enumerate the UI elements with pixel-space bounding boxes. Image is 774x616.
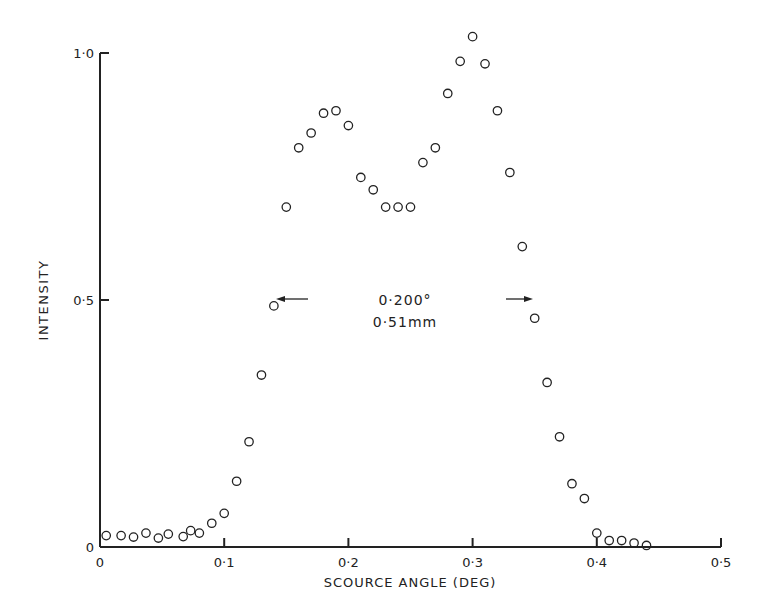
- width-mm-annotation: 0·51mm: [373, 314, 437, 330]
- data-point: [543, 378, 551, 386]
- data-point: [257, 371, 265, 379]
- data-point: [605, 536, 613, 544]
- data-point: [506, 168, 514, 176]
- y-tick-label: 1·0: [73, 46, 94, 61]
- data-point: [518, 242, 526, 250]
- data-point: [186, 526, 194, 534]
- data-point: [208, 519, 216, 527]
- data-point: [419, 158, 427, 166]
- data-point: [394, 203, 402, 211]
- data-point: [295, 144, 303, 152]
- data-point: [381, 203, 389, 211]
- data-point: [282, 203, 290, 211]
- data-point: [593, 529, 601, 537]
- x-axis-label: SCOURCE ANGLE (DEG): [324, 575, 497, 590]
- data-point: [406, 203, 414, 211]
- data-point: [468, 32, 476, 40]
- data-point: [481, 60, 489, 68]
- data-point: [630, 539, 638, 547]
- data-point: [580, 494, 588, 502]
- data-point: [179, 532, 187, 540]
- data-point: [568, 480, 576, 488]
- data-point: [307, 129, 315, 137]
- data-point: [456, 57, 464, 65]
- right-arrow-icon: [524, 296, 533, 302]
- x-tick-label: 0·2: [338, 555, 359, 570]
- data-point: [493, 107, 501, 115]
- x-tick-label: 0·1: [214, 555, 235, 570]
- data-point: [142, 529, 150, 537]
- x-tick-label: 0·3: [462, 555, 483, 570]
- data-point: [319, 109, 327, 117]
- data-point: [154, 534, 162, 542]
- data-point: [357, 173, 365, 181]
- data-point: [617, 536, 625, 544]
- x-tick-label: 0: [96, 555, 104, 570]
- data-point: [555, 433, 563, 441]
- data-point: [232, 477, 240, 485]
- x-tick-label: 0·4: [586, 555, 607, 570]
- data-point: [431, 144, 439, 152]
- data-point: [642, 541, 650, 549]
- data-point: [164, 530, 172, 538]
- x-tick-label: 0·5: [711, 555, 732, 570]
- left-arrow-icon: [276, 296, 285, 302]
- width-degrees-annotation: 0·200°: [378, 292, 431, 308]
- y-axis-label: INTENSITY: [36, 260, 51, 341]
- data-point: [344, 121, 352, 129]
- data-point: [270, 302, 278, 310]
- intensity-chart: 00·10·20·30·40·500·51·0SCOURCE ANGLE (DE…: [0, 0, 774, 616]
- data-point: [102, 531, 110, 539]
- data-point: [129, 533, 137, 541]
- y-tick-label: 0·5: [73, 293, 94, 308]
- data-point: [195, 529, 203, 537]
- data-point: [444, 89, 452, 97]
- data-point: [245, 438, 253, 446]
- data-point: [332, 107, 340, 115]
- data-point: [117, 531, 125, 539]
- data-point: [220, 509, 228, 517]
- data-point: [369, 186, 377, 194]
- y-tick-label: 0: [86, 540, 94, 555]
- data-point: [531, 314, 539, 322]
